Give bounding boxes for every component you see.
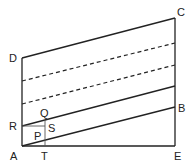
label-T: T	[41, 150, 48, 162]
label-A: A	[10, 150, 18, 162]
diagram-canvas: C D B Q R S P A T E	[0, 0, 194, 167]
dashed-line-upper	[22, 43, 175, 81]
segment-DC	[22, 18, 175, 58]
label-P: P	[34, 130, 41, 142]
label-B: B	[178, 102, 185, 114]
label-D: D	[9, 52, 17, 64]
dashed-line-lower	[22, 65, 175, 104]
label-S: S	[48, 122, 55, 134]
label-C: C	[177, 6, 185, 18]
geometry-figure: C D B Q R S P A T E	[0, 0, 194, 167]
label-E: E	[174, 150, 181, 162]
label-R: R	[9, 120, 17, 132]
label-Q: Q	[40, 107, 49, 119]
